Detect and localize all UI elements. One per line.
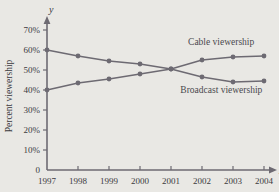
y-tick-label: 40% [24,85,41,95]
x-tick-label: 2004 [255,176,274,186]
chart-figure: yx70%60%50%40%30%20%10%01997199819992000… [0,0,279,192]
series-annotation-1: Cable viewership [188,37,254,47]
y-axis-title: Percent viewership [4,59,14,132]
y-tick-label: 70% [24,25,41,35]
data-point [76,81,81,86]
series-annotation-2: Broadcast viewership [180,85,262,95]
y-tick-label: 60% [24,45,41,55]
x-tick-label: 1999 [100,176,119,186]
y-tick-label: 30% [24,105,41,115]
x-axis-arrow-icon [269,167,277,174]
data-point [200,75,205,80]
data-point [107,77,112,82]
x-tick-label: 1997 [38,176,57,186]
y-tick-label: 50% [24,65,41,75]
x-tick-label: 2000 [131,176,150,186]
y-axis-arrow-icon [44,16,51,24]
data-point [262,79,267,84]
data-point [107,59,112,64]
data-point [138,62,143,67]
data-point [45,48,50,53]
x-tick-label: 2002 [193,176,211,186]
data-point [262,54,267,59]
data-point [76,54,81,59]
y-tick-label: 10% [24,145,41,155]
x-axis-name-label: x [278,165,279,176]
y-tick-label: 0 [36,165,41,175]
data-point [45,88,50,93]
y-tick-label: 20% [24,125,41,135]
data-point [138,72,143,77]
data-point [231,55,236,60]
data-point [200,58,205,63]
x-tick-label: 1998 [69,176,88,186]
line-chart: yx70%60%50%40%30%20%10%01997199819992000… [0,0,279,192]
data-point [231,80,236,85]
y-axis-name-label: y [48,4,54,15]
x-tick-label: 2003 [224,176,243,186]
data-point [169,67,174,72]
x-tick-label: 2001 [162,176,180,186]
